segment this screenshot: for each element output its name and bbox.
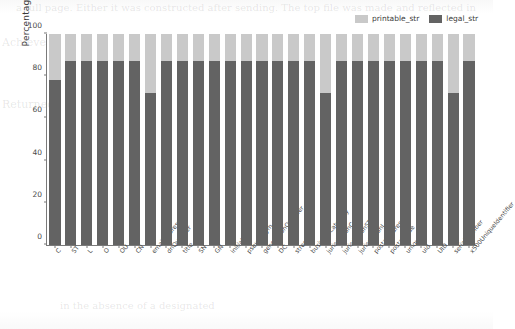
y-tick-label: 80 bbox=[32, 63, 42, 72]
bar-segment-legal-str bbox=[272, 61, 283, 245]
bar-segment-legal-str bbox=[97, 61, 108, 245]
bar-group: jurisdictionL bbox=[352, 34, 363, 245]
bar-segment-legal-str bbox=[49, 80, 60, 245]
y-tick-label: 20 bbox=[32, 189, 42, 198]
bar-segment-printable-str bbox=[400, 34, 411, 61]
bar-group: SN bbox=[193, 34, 204, 245]
bar-segment-legal-str bbox=[448, 93, 459, 245]
bar-group: UID bbox=[432, 34, 443, 245]
bar-segment-printable-str bbox=[241, 34, 252, 61]
bar-segment-printable-str bbox=[225, 34, 236, 61]
bar-segment-legal-str bbox=[225, 61, 236, 245]
bar-group: ST bbox=[65, 34, 76, 245]
bar-segment-printable-str bbox=[161, 34, 172, 61]
x-tick-label: ST bbox=[70, 244, 80, 254]
bar-segment-legal-str bbox=[81, 61, 92, 245]
legend-label-legal-str: legal_str bbox=[446, 14, 478, 23]
bar-group: pseudonym bbox=[241, 34, 252, 245]
y-tick-label: 0 bbox=[37, 232, 42, 241]
bar-segment-printable-str bbox=[272, 34, 283, 61]
bar-segment-legal-str bbox=[65, 61, 76, 245]
bars-container: CSTLOOUCNemailAddressdnQualifiertitleSNG… bbox=[47, 34, 477, 245]
legend-label-printable-str: printable_str bbox=[372, 14, 419, 23]
bar-group: generationQualifier bbox=[256, 34, 267, 245]
bar-segment-legal-str bbox=[113, 61, 124, 245]
bar-segment-legal-str bbox=[432, 61, 443, 245]
bar-group: uniqueId bbox=[400, 34, 411, 245]
bar-segment-printable-str bbox=[416, 34, 427, 61]
bar-segment-printable-str bbox=[256, 34, 267, 61]
bar-segment-printable-str bbox=[384, 34, 395, 61]
legend-item-printable-str: printable_str bbox=[355, 14, 419, 23]
bar-group: OU bbox=[113, 34, 124, 245]
bar-segment-printable-str bbox=[97, 34, 108, 61]
bar-segment-printable-str bbox=[49, 34, 60, 80]
bar-segment-printable-str bbox=[352, 34, 363, 61]
bar-segment-legal-str bbox=[368, 61, 379, 245]
bar-group: postalCode bbox=[384, 34, 395, 245]
bar-segment-legal-str bbox=[416, 61, 427, 245]
bar-group: x500UniqueIdentifier bbox=[463, 34, 474, 245]
legend-swatch-legal-str bbox=[429, 15, 442, 23]
bar-segment-printable-str bbox=[320, 34, 331, 93]
bar-segment-legal-str bbox=[161, 61, 172, 245]
bar-segment-printable-str bbox=[193, 34, 204, 61]
bar-group: emailAddress bbox=[145, 34, 156, 245]
bar-segment-legal-str bbox=[400, 61, 411, 245]
legend-item-legal-str: legal_str bbox=[429, 14, 478, 23]
bar-segment-legal-str bbox=[288, 61, 299, 245]
bar-segment-legal-str bbox=[320, 93, 331, 245]
y-tick-label: 40 bbox=[32, 147, 42, 156]
bar-segment-printable-str bbox=[288, 34, 299, 61]
y-axis-label: Percentage(%) bbox=[21, 0, 31, 76]
bar-segment-legal-str bbox=[463, 61, 474, 245]
x-tick-label: O bbox=[102, 246, 110, 254]
bar-segment-printable-str bbox=[113, 34, 124, 61]
bar-group: businessCategory bbox=[304, 34, 315, 245]
bar-segment-legal-str bbox=[209, 61, 220, 245]
bar-segment-legal-str bbox=[304, 61, 315, 245]
bar-segment-legal-str bbox=[384, 61, 395, 245]
bar-segment-printable-str bbox=[209, 34, 220, 61]
bar-segment-legal-str bbox=[241, 61, 252, 245]
bar-group: title bbox=[177, 34, 188, 245]
x-tick-label: SN bbox=[197, 243, 208, 254]
bar-segment-legal-str bbox=[256, 61, 267, 245]
bar-segment-printable-str bbox=[432, 34, 443, 61]
bar-group: C bbox=[49, 34, 60, 245]
x-tick-label: C bbox=[54, 247, 62, 255]
bar-segment-legal-str bbox=[129, 61, 140, 245]
legend-swatch-printable-str bbox=[355, 15, 368, 23]
bar-group: jurisdictionC bbox=[320, 34, 331, 245]
bar-group: initials bbox=[225, 34, 236, 245]
bar-group: jurisdictionST bbox=[336, 34, 347, 245]
bar-group: postalAddress bbox=[368, 34, 379, 245]
bar-segment-printable-str bbox=[336, 34, 347, 61]
plot-area: Percentage(%) 020406080100 CSTLOOUCNemai… bbox=[46, 34, 477, 246]
x-tick-label: L bbox=[86, 247, 94, 254]
chart-legend: printable_str legal_str bbox=[355, 14, 478, 23]
bar-segment-legal-str bbox=[336, 61, 347, 245]
y-tick-label: 60 bbox=[32, 105, 42, 114]
bar-segment-legal-str bbox=[352, 61, 363, 245]
bar-segment-printable-str bbox=[304, 34, 315, 61]
bar-group: dnQualifier bbox=[161, 34, 172, 245]
bar-segment-legal-str bbox=[193, 61, 204, 245]
bar-segment-legal-str bbox=[145, 93, 156, 245]
bar-group: CN bbox=[129, 34, 140, 245]
bar-group: serialNumber bbox=[448, 34, 459, 245]
y-tick-label: 100 bbox=[28, 21, 42, 30]
bar-group: uid bbox=[416, 34, 427, 245]
bar-group: DC bbox=[272, 34, 283, 245]
bar-segment-printable-str bbox=[177, 34, 188, 61]
bar-segment-legal-str bbox=[177, 61, 188, 245]
bar-segment-printable-str bbox=[448, 34, 459, 93]
bar-segment-printable-str bbox=[129, 34, 140, 61]
bar-group: O bbox=[97, 34, 108, 245]
bar-segment-printable-str bbox=[81, 34, 92, 61]
bar-segment-printable-str bbox=[65, 34, 76, 61]
bar-group: street bbox=[288, 34, 299, 245]
bar-group: GN bbox=[209, 34, 220, 245]
bar-segment-printable-str bbox=[463, 34, 474, 61]
